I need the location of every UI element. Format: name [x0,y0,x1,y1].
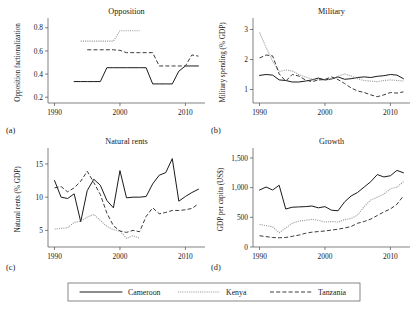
x-tick-label: 2010 [383,252,398,261]
y-tick-label: 0 [244,243,248,252]
y-axis-title: GDP per capita (US$) [217,167,225,231]
y-axis-title: Military spending (% GDP) [219,22,227,103]
x-tick-label: 2010 [178,252,193,261]
panel-b: Military123199020002010Military spending… [211,7,410,135]
series-line-cameroon [260,75,404,83]
legend: CameroonKenyaTanzania [68,283,360,301]
legend-label-cameroon: Cameroon [128,288,161,297]
y-tick-label: 1,500 [231,154,248,163]
series-line-kenya [260,33,404,82]
panel-letter-c: (c) [6,263,16,272]
figure-container: Opposition0.20.40.60.8199020002010Opposi… [0,0,417,312]
x-tick-label: 2000 [318,108,333,117]
y-tick-label: 500 [237,213,248,222]
series-line-kenya [260,182,404,233]
panel-c: Natural rents51015199020002010Natural re… [6,137,205,272]
y-tick-label: 0.8 [34,23,44,32]
y-tick-label: 10 [36,193,44,202]
panel-title-d: Growth [319,137,344,146]
panel-letter-a: (a) [6,126,16,135]
x-tick-label: 2000 [113,252,128,261]
y-tick-label: 15 [36,160,44,169]
series-line-cameroon [74,66,198,84]
x-tick-label: 1990 [252,108,267,117]
x-tick-label: 1990 [47,108,62,117]
x-tick-label: 2010 [383,108,398,117]
legend-label-tanzania: Tanzania [318,288,347,297]
x-tick-label: 2000 [113,108,128,117]
x-tick-label: 2010 [178,108,193,117]
panel-letter-b: (b) [211,126,221,135]
series-line-tanzania [87,50,198,66]
panel-letter-d: (d) [211,263,221,272]
y-tick-label: 0.4 [34,70,44,79]
y-axis-title: Opposition factionalization [14,23,22,102]
y-tick-label: 2 [244,55,248,64]
series-line-kenya [81,31,140,41]
panel-a: Opposition0.20.40.60.8199020002010Opposi… [6,7,205,135]
y-tick-label: 0.6 [34,47,44,56]
y-tick-label: 1 [244,85,248,94]
panel-title-a: Opposition [108,7,144,16]
legend-label-kenya: Kenya [226,288,247,297]
y-axis-title: Natural rents (% GDP) [14,166,22,233]
x-tick-label: 1990 [252,252,267,261]
series-line-cameroon [260,170,404,210]
y-tick-label: 1,000 [231,183,248,192]
panel-d: Growth05001,0001,500199020002010GDP per … [211,137,410,272]
x-tick-label: 2000 [318,252,333,261]
y-tick-label: 0.2 [34,93,44,102]
x-tick-label: 1990 [47,252,62,261]
multi-panel-line-chart: Opposition0.20.40.60.8199020002010Opposi… [0,0,417,312]
panel-title-c: Natural rents [105,137,148,146]
y-tick-label: 3 [244,25,248,34]
panel-title-b: Military [318,7,346,16]
y-tick-label: 5 [39,226,43,235]
series-line-cameroon [55,159,199,222]
series-line-kenya [55,214,140,238]
